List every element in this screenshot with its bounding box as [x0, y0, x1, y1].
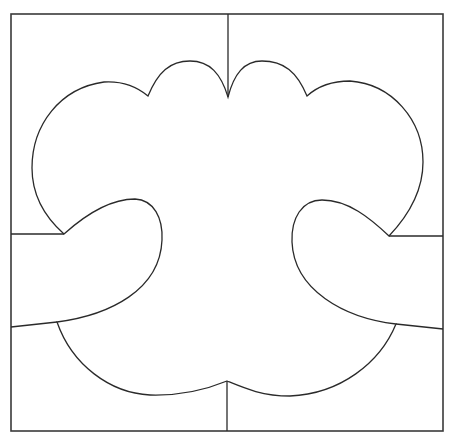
outer-frame — [11, 14, 443, 431]
right-lower-divider — [396, 324, 443, 329]
left-lower-divider — [11, 322, 57, 327]
central-shape-outline — [32, 61, 423, 396]
puzzle-diagram — [0, 0, 451, 440]
